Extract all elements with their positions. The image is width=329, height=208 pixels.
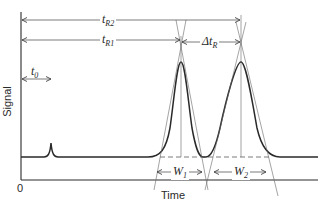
tR2-label: tR2 [100,13,116,28]
x-axis-label: Time [161,190,185,201]
t0-label: t0 [31,65,38,80]
tR1-sub: R1 [105,39,114,48]
W2-main: W [234,164,244,178]
chromatogram-diagram [0,0,329,208]
W2-sub: 2 [244,171,248,180]
W2-label: W2 [232,165,250,180]
t0-sub: 0 [34,71,38,80]
delta-tR-sub: R [212,41,217,50]
signal-trace [21,62,318,157]
origin-label: 0 [17,183,23,194]
tR1-label: tR1 [100,33,116,48]
W1-sub: 1 [183,171,187,180]
W1-main: W [173,164,183,178]
y-axis-label: Signal [2,86,13,117]
delta-tR-main: Δt [202,34,212,48]
tR2-sub: R2 [105,19,114,28]
delta-tR-label: ΔtR [200,35,219,50]
W1-label: W1 [171,165,189,180]
